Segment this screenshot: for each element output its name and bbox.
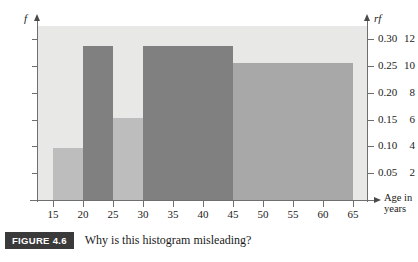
y-axis-left-line (37, 20, 38, 202)
x-axis-tick-label: 55 (281, 208, 305, 220)
histogram-bar (83, 46, 113, 200)
figure-number-badge: FIGURE 4.6 (5, 232, 74, 249)
x-axis-title-line2: years (384, 203, 418, 214)
y-axis-left-tick (32, 146, 38, 147)
x-axis-tick (233, 201, 234, 207)
x-axis-tick-label: 60 (311, 208, 335, 220)
x-axis-tick (143, 201, 144, 207)
y-axis-right-tick (368, 120, 374, 121)
plot-area (38, 26, 368, 200)
y-axis-left-arrow-icon (34, 14, 40, 21)
y-axis-right-tick-label: 0.25 (378, 59, 412, 71)
figure-caption-row: FIGURE 4.6 Why is this histogram mislead… (5, 232, 251, 249)
y-axis-right-tick (368, 146, 374, 147)
histogram-bar (233, 63, 353, 200)
x-axis-tick (293, 201, 294, 207)
y-axis-right-tick-label: 0.10 (378, 139, 412, 151)
x-axis-tick-label: 15 (41, 208, 65, 220)
x-axis-tick (323, 201, 324, 207)
x-axis-tick (113, 201, 114, 207)
y-axis-right-tick (368, 93, 374, 94)
y-axis-right-line (367, 20, 368, 202)
y-axis-left-title: f (24, 12, 27, 24)
y-axis-right-tick (368, 66, 374, 67)
x-axis-tick-label: 65 (341, 208, 365, 220)
figure-caption-text: Why is this histogram misleading? (85, 233, 252, 248)
y-axis-right-tick-label: 0.30 (378, 32, 412, 44)
x-axis-tick (53, 201, 54, 207)
histogram-bar (113, 118, 143, 200)
x-axis-tick-label: 35 (161, 208, 185, 220)
y-axis-right-tick-label: 0.20 (378, 86, 412, 98)
y-axis-left-tick (32, 66, 38, 67)
x-axis-tick (83, 201, 84, 207)
x-axis-tick (263, 201, 264, 207)
x-axis-tick-label: 40 (191, 208, 215, 220)
x-axis-arrow-icon (374, 197, 381, 203)
x-axis-tick-label: 25 (101, 208, 125, 220)
y-axis-right-title: rf (374, 12, 381, 24)
y-axis-left-tick (32, 120, 38, 121)
x-axis-tick-label: 45 (221, 208, 245, 220)
x-axis-tick (173, 201, 174, 207)
x-axis-title: Age in years (384, 192, 418, 214)
x-axis-tick-label: 20 (71, 208, 95, 220)
y-axis-left-tick (32, 93, 38, 94)
x-axis-tick-label: 30 (131, 208, 155, 220)
x-axis-title-line1: Age in (384, 192, 418, 203)
y-axis-right-arrow-icon (364, 14, 370, 21)
y-axis-right-tick-label: 0.15 (378, 113, 412, 125)
x-axis-tick (203, 201, 204, 207)
y-axis-left-tick (32, 173, 38, 174)
y-axis-right-tick (368, 173, 374, 174)
y-axis-left-tick (32, 39, 38, 40)
histogram-bar (53, 148, 83, 200)
histogram-bar (143, 46, 233, 200)
y-axis-right-tick (368, 39, 374, 40)
x-axis-tick-label: 50 (251, 208, 275, 220)
y-axis-right-tick-label: 0.05 (378, 166, 412, 178)
x-axis-tick (353, 201, 354, 207)
